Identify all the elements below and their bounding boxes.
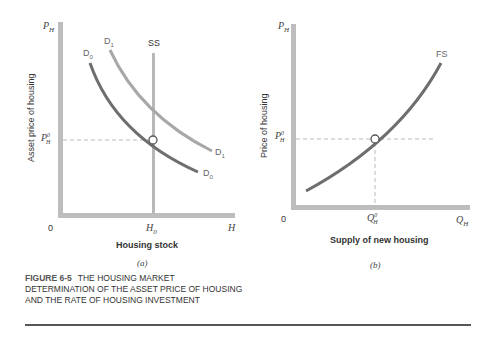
panel-a-equilibrium-marker <box>149 136 157 144</box>
panel-b-x-axis-title: Supply of new housing <box>330 235 429 245</box>
caption-rule <box>25 324 471 326</box>
panel-b-q0-tick: Q0H <box>367 212 378 225</box>
panel-a-x-axis <box>58 213 235 218</box>
panel-a-x-axis-title: Housing stock <box>116 240 178 250</box>
panel-a-x-symbol: H <box>228 222 235 233</box>
panel-a-d0-curve <box>90 63 198 172</box>
panel-a-h0-tick: H0 <box>146 222 157 236</box>
panel-a-d0-top-label: D0 <box>83 48 93 60</box>
panel-b-p0-tick: P0H <box>275 130 284 143</box>
panel-b-fs-curve <box>306 63 441 191</box>
panel-a-ss-line <box>152 53 155 213</box>
panel-b-panel-label: (b) <box>370 260 381 270</box>
panel-a-y-symbol: PH <box>43 20 54 34</box>
panel-b-equilibrium-marker <box>371 135 379 143</box>
panel-b-y-axis-title: Price of housing <box>259 93 269 158</box>
panel-a-d0-end-label: D0 <box>203 168 213 180</box>
panel-b-x-axis <box>291 205 470 210</box>
panel-a-panel-label: (a) <box>137 258 148 268</box>
panel-a-d1-end-label: D1 <box>215 147 225 159</box>
panel-a-y-axis <box>58 22 63 218</box>
figure-caption: FIGURE 6-5THE HOUSING MARKET DETERMINATI… <box>25 273 245 306</box>
panel-b-y-symbol: PH <box>278 20 289 34</box>
panel-b-x-symbol: QH <box>456 214 468 228</box>
panel-a-ss-label: SS <box>148 38 160 48</box>
panel-b-fs-label: FS <box>436 49 448 59</box>
panel-b-y-axis <box>291 24 296 210</box>
panel-a-d1-top-label: D1 <box>104 36 114 48</box>
panel-b-origin: 0 <box>281 214 286 224</box>
panel-a-p0-tick: P0H <box>41 132 50 145</box>
panel-a-y-axis-title: Asset price of housing <box>26 73 36 162</box>
panel-a-d1-curve <box>110 50 212 151</box>
panel-a-origin: 0 <box>48 223 53 233</box>
figure-number: FIGURE 6-5 <box>25 273 72 283</box>
